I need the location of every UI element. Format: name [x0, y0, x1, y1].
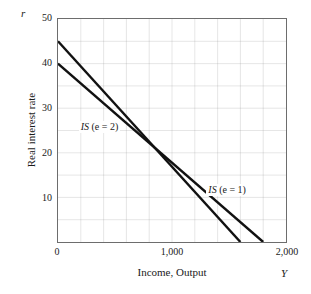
y-tick-label: 10 — [26, 193, 52, 203]
plot-area: IS (e = 2) IS (e = 1) — [57, 18, 287, 243]
x-tick-label: 2,000 — [262, 247, 311, 257]
y-tick-label: 30 — [26, 103, 52, 113]
x-axis-title: Income, Output — [57, 266, 287, 278]
x-tick-label: 0 — [32, 247, 82, 257]
y-tick-label: 40 — [26, 58, 52, 68]
curve-label-is-e2: IS (e = 2) — [79, 121, 121, 133]
is-curve-figure: r Y Real interest rate Income, Output 50… — [0, 0, 311, 294]
y-tick-label: 20 — [26, 148, 52, 158]
x-tick-label: 1,000 — [147, 247, 197, 257]
y-tick-label: 50 — [26, 13, 52, 23]
curve-label-is-e1: IS (e = 1) — [206, 184, 248, 196]
